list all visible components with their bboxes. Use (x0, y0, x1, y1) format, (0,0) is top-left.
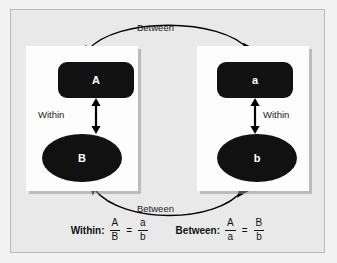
formula-between-right-denominator: b (254, 232, 264, 243)
node-ellipse-b-lower: b (217, 134, 297, 182)
formula-within-title: Within: (71, 225, 105, 236)
formula-between-left-fraction: A a (225, 218, 236, 242)
formula-within-equals: = (126, 225, 132, 236)
diagram-root: Between Between A Within B (0, 0, 337, 263)
node-rect-a-lower: a (217, 62, 293, 98)
formula-between: Between: A a = B b (176, 218, 267, 242)
within-label-left: Within (38, 109, 64, 120)
diagram-frame: Between Between A Within B (10, 9, 325, 253)
formula-within-left-fraction: A B (110, 218, 121, 242)
formula-within: Within: A B = a b (71, 218, 150, 242)
formula-between-left-numerator: A (225, 218, 236, 229)
formula-between-title: Between: (176, 225, 220, 236)
formula-within-right-fraction: a b (138, 218, 148, 242)
formula-between-left-denominator: a (226, 232, 236, 243)
within-arrow-left (85, 98, 107, 134)
formula-between-equals: = (242, 225, 248, 236)
within-label-right: Within (263, 109, 289, 120)
node-ellipse-b: B (42, 134, 122, 182)
formula-within-left-numerator: A (110, 218, 121, 229)
node-rect-a: A (58, 62, 134, 98)
formula-within-right-denominator: b (138, 232, 148, 243)
formula-between-right-fraction: B b (254, 218, 265, 242)
formula-between-right-numerator: B (254, 218, 265, 229)
panel-left: A Within B (26, 46, 138, 191)
between-label-top: Between (137, 22, 174, 33)
between-label-bottom: Between (137, 203, 174, 214)
panel-right: a Within b (197, 46, 309, 191)
formula-row: Within: A B = a b Between: A a (11, 218, 326, 242)
formula-within-left-denominator: B (110, 232, 121, 243)
formula-within-right-numerator: a (138, 218, 148, 229)
